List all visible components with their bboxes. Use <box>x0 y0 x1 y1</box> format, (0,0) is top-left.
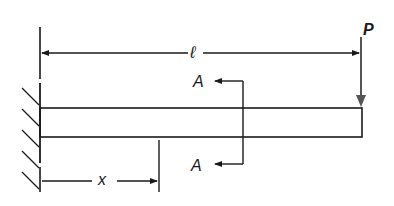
wall-hatching <box>22 88 39 189</box>
distance-label: x <box>98 172 106 188</box>
section-label-bottom: A <box>191 158 202 174</box>
section-cut-A-A <box>215 81 243 164</box>
load-arrow-P <box>356 37 366 107</box>
load-label: P <box>363 22 374 38</box>
section-label-top: A <box>193 74 204 90</box>
fixed-support-wall <box>22 27 40 192</box>
length-label: ℓ <box>190 44 196 61</box>
beam <box>40 108 362 137</box>
cantilever-beam-diagram <box>0 0 394 206</box>
